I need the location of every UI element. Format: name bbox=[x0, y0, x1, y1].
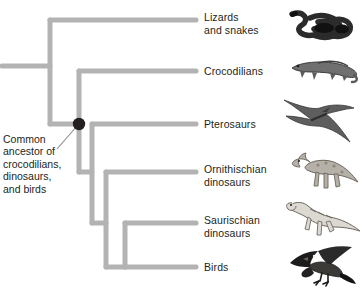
tip-label-ornithischian-dinosaurs: Ornithischian dinosaurs bbox=[204, 163, 267, 188]
hadrosaur-illustration bbox=[288, 148, 360, 198]
tip-label-lizards-and-snakes: Lizards and snakes bbox=[204, 11, 259, 36]
phylogenetic-tree-diagram: Lizards and snakes Crocodilians Pterosau… bbox=[0, 0, 364, 293]
common-ancestor-annotation: Common ancestor of crocodilians, dinosau… bbox=[3, 133, 79, 195]
theropod-illustration bbox=[284, 197, 362, 243]
pterosaur-illustration bbox=[282, 96, 362, 144]
bird-illustration bbox=[288, 243, 360, 289]
tip-label-crocodilians: Crocodilians bbox=[204, 65, 263, 78]
crocodilian-dinosaur-bird-ancestor-node-marker bbox=[73, 118, 85, 130]
tip-label-saurischian-dinosaurs: Saurischian dinosaurs bbox=[204, 214, 260, 239]
snake-illustration bbox=[288, 8, 358, 48]
crocodile-illustration bbox=[288, 55, 360, 89]
tip-label-birds: Birds bbox=[204, 261, 228, 274]
tip-label-pterosaurs: Pterosaurs bbox=[204, 118, 256, 131]
